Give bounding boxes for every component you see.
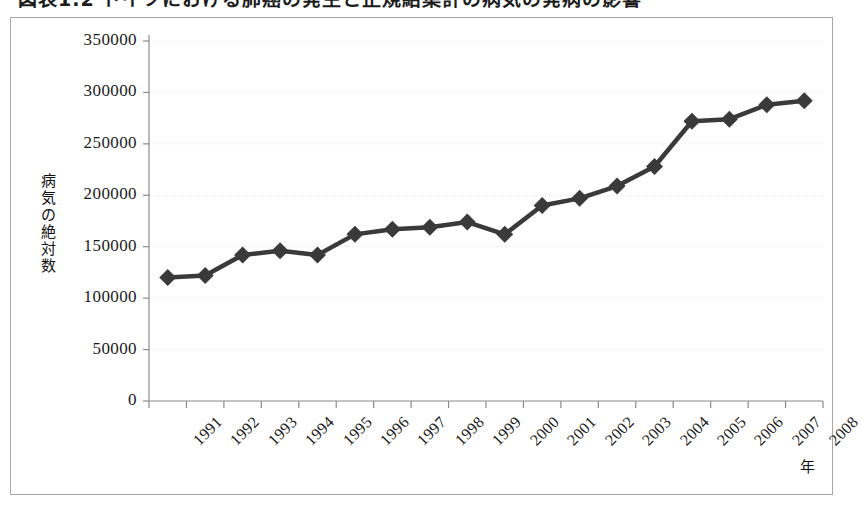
data-point-marker (421, 219, 438, 236)
data-line (168, 101, 805, 278)
data-point-marker (459, 214, 476, 231)
data-point-marker (796, 92, 813, 109)
data-point-marker (272, 242, 289, 259)
figure-title-strip: 図表1.2 ドイツにおける肺癌の発生と正規給集計の病気の発病の影響 (0, 0, 843, 9)
data-point-marker (234, 246, 251, 263)
line-chart: 病 気 の 絶 対 数 年 05000010000015000020000025… (11, 18, 832, 494)
data-point-marker (309, 246, 326, 263)
data-point-marker (384, 221, 401, 238)
data-point-marker (758, 96, 775, 113)
figure-title: 図表1.2 ドイツにおける肺癌の発生と正規給集計の病気の発病の影響 (18, 0, 642, 9)
figure-frame: 病 気 の 絶 対 数 年 05000010000015000020000025… (10, 17, 833, 495)
data-point-marker (571, 190, 588, 207)
data-point-marker (721, 111, 738, 128)
plot-canvas (11, 18, 834, 496)
data-point-marker (159, 269, 176, 286)
data-point-marker (609, 178, 626, 195)
data-point-marker (197, 267, 214, 284)
data-point-marker (346, 226, 363, 243)
